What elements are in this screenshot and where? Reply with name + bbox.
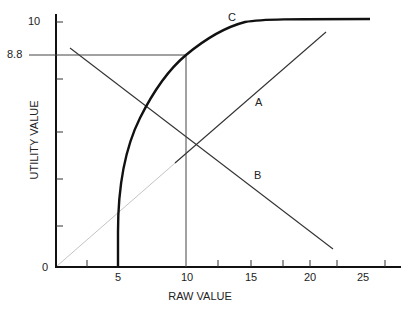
x-tick-label-5: 5 (115, 272, 121, 283)
x-tick-label-25: 25 (357, 272, 369, 283)
x-ticks (87, 260, 385, 267)
y-ticks (56, 22, 63, 226)
y-tick-label-8-8: 8.8 (7, 49, 22, 60)
y-axis-title: UTILITY VALUE (28, 100, 40, 179)
curve-c (118, 19, 370, 267)
series-label-c: C (228, 12, 236, 23)
x-tick-label-20: 20 (304, 272, 316, 283)
x-axis-title: RAW VALUE (168, 290, 232, 302)
x-tick-label-15: 15 (245, 272, 257, 283)
utility-chart (0, 0, 409, 309)
series-label-a: A (255, 97, 262, 108)
series-label-b: B (254, 170, 261, 181)
y-tick-label-10: 10 (28, 16, 40, 27)
line-a (175, 32, 326, 163)
line-b (70, 48, 333, 249)
y-tick-label-0: 0 (42, 262, 48, 273)
x-tick-label-10: 10 (181, 272, 193, 283)
